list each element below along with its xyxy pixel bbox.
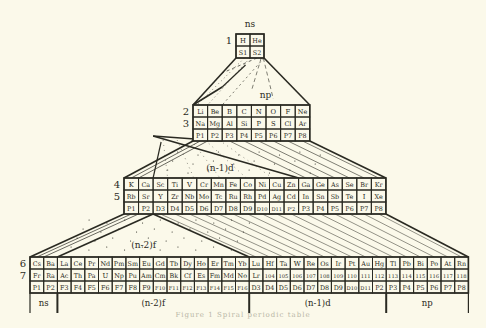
element-symbol: Ge: [316, 181, 325, 189]
element-symbol: Y: [157, 193, 163, 201]
orbital-label: P1: [196, 132, 204, 140]
element-symbol: Hg: [375, 260, 385, 268]
orbital-label: F14: [210, 285, 221, 291]
orbital-label: P6: [430, 284, 438, 292]
element-symbol: Te: [346, 193, 354, 201]
orbital-label: P2: [211, 132, 219, 140]
element-symbol: N: [256, 108, 262, 116]
element-symbol: Lr: [252, 272, 260, 280]
label-ns: ns: [245, 19, 256, 29]
element-symbol: Ra: [46, 272, 55, 280]
orbital-label: S2: [253, 49, 261, 57]
orbital-label: F3: [60, 284, 69, 292]
element-symbol: 115: [415, 273, 425, 279]
element-symbol: As: [330, 181, 339, 189]
element-symbol: Rn: [457, 260, 466, 268]
element-symbol: 116: [429, 273, 439, 279]
element-symbol: 111: [361, 273, 371, 279]
element-symbol: Po: [430, 260, 438, 268]
connector-lines: [30, 58, 468, 257]
orbital-label: P'2: [287, 206, 295, 212]
element-symbol: Md: [223, 272, 234, 280]
element-symbol: Am: [140, 272, 152, 280]
element-symbol: Ba: [46, 260, 55, 268]
element-symbol: Co: [243, 181, 252, 189]
element-symbol: I: [363, 193, 366, 201]
element-symbol: Ru: [229, 193, 238, 201]
orbital-label: F11: [169, 285, 179, 291]
element-symbol: He: [252, 37, 262, 45]
element-symbol: Pt: [349, 260, 356, 268]
element-symbol: Zr: [171, 193, 179, 201]
orbital-label: P5: [255, 132, 263, 140]
orbital-label: P7: [284, 132, 292, 140]
block-period-1: HHeS1S21: [226, 34, 264, 58]
orbital-label: P4: [403, 284, 411, 292]
element-symbol: Na: [196, 120, 206, 128]
element-symbol: 107: [306, 273, 316, 279]
element-symbol: Ni: [258, 181, 266, 189]
orbital-label: D6: [293, 284, 302, 292]
block-period-2-3: LiBeBCNOFNeNaMgAlSiPSClArP1P2P3P4P5P6P7P…: [183, 105, 310, 141]
element-symbol: Pm: [114, 260, 124, 268]
element-symbol: Fr: [33, 272, 41, 280]
label-n-1-d: (n-1)d: [206, 163, 234, 173]
element-symbol: Sm: [128, 260, 138, 268]
element-symbol: H: [240, 37, 246, 45]
element-symbol: Np: [114, 272, 124, 280]
period-number: 1: [226, 35, 232, 46]
element-symbol: Sc: [156, 181, 164, 189]
orbital-label: P2: [142, 205, 150, 213]
element-symbol: No: [238, 272, 248, 280]
orbital-label: P5: [331, 205, 339, 213]
orbital-label: F5: [87, 284, 96, 292]
element-symbol: 106: [292, 273, 302, 279]
orbital-label: P1: [127, 205, 135, 213]
orbital-label: F9: [142, 284, 151, 292]
orbital-label: F4: [74, 284, 83, 292]
bottom-group-labels: ns(n-2)f(n-1)dnp: [30, 293, 468, 313]
element-symbol: Cl: [284, 120, 291, 128]
block-period-6-7: CsBaLaCePrNdPmSmEuGdTbDyHoErTmYbLuHfTaWR…: [20, 257, 469, 293]
element-symbol: Cf: [184, 272, 192, 280]
element-symbol: 108: [320, 273, 330, 279]
element-symbol: Fe: [229, 181, 237, 189]
label-np: np: [260, 90, 272, 100]
element-symbol: Gd: [156, 260, 165, 268]
element-symbol: Au: [360, 260, 370, 268]
element-symbol: Dy: [183, 260, 192, 268]
element-symbol: Mo: [199, 193, 210, 201]
element-symbol: C: [241, 108, 246, 116]
orbital-label: F16: [237, 285, 247, 291]
label-n-2-f: (n-2)f: [131, 240, 157, 250]
orbital-label: P8: [298, 132, 306, 140]
element-symbol: 104: [265, 273, 276, 279]
orbital-label: P5: [416, 284, 424, 292]
orbital-label: F8: [128, 284, 137, 292]
element-symbol: Li: [197, 108, 203, 116]
orbital-label: D4: [170, 205, 179, 213]
orbital-label: P7: [444, 284, 452, 292]
element-symbol: Sb: [331, 193, 339, 201]
element-symbol: Fm: [210, 272, 221, 280]
element-symbol: Kr: [375, 181, 384, 189]
element-symbol: Tc: [215, 193, 223, 201]
element-symbol: Th: [74, 272, 82, 280]
element-symbol: U: [102, 272, 108, 280]
element-symbol: Lu: [252, 260, 260, 268]
orbital-label: D5: [279, 284, 288, 292]
orbital-label: P7: [360, 205, 368, 213]
orbital-label: D8: [320, 284, 329, 292]
orbital-label: P1: [33, 284, 41, 292]
element-symbol: Cs: [33, 260, 41, 268]
orbital-label: D7: [306, 284, 315, 292]
element-symbol: Si: [241, 120, 247, 128]
orbital-label: D11: [271, 206, 282, 212]
element-symbol: Ti: [172, 181, 178, 189]
period-number: 3: [183, 118, 189, 129]
element-symbol: Yb: [237, 260, 246, 268]
element-symbol: Sn: [316, 193, 325, 201]
element-symbol: Nb: [185, 193, 195, 201]
element-symbol: Pr: [88, 260, 96, 268]
element-symbol: O: [271, 108, 277, 116]
